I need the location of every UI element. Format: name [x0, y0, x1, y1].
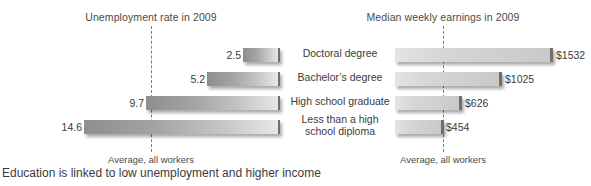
category-label: Less than a high school diploma [288, 114, 392, 137]
right-panel-title: Median weekly earnings in 2009 [366, 11, 519, 23]
earnings-value-label: $1025 [505, 73, 534, 85]
unemployment-bar [146, 96, 280, 110]
chart-figure: Unemployment rate in 2009 Median weekly … [0, 0, 591, 186]
category-label: Bachelor’s degree [288, 72, 392, 84]
unemployment-value-label: 5.2 [190, 73, 205, 85]
unemployment-bar [243, 48, 280, 62]
category-label: High school graduate [288, 96, 392, 108]
left-panel-title: Unemployment rate in 2009 [85, 11, 217, 23]
unemployment-value-label: 2.5 [226, 49, 241, 61]
chart-row: 5.2 Bachelor’s degree $1025 [0, 72, 591, 96]
right-average-caption: Average, all workers [400, 154, 486, 165]
left-average-caption: Average, all workers [108, 154, 194, 165]
earnings-value-label: $454 [446, 121, 469, 133]
figure-caption: Education is linked to low unemployment … [2, 166, 321, 180]
earnings-bar [395, 96, 462, 110]
unemployment-bar [207, 72, 280, 86]
earnings-value-label: $626 [465, 97, 488, 109]
unemployment-value-label: 9.7 [129, 97, 144, 109]
chart-row: 2.5 Doctoral degree $1532 [0, 48, 591, 72]
earnings-bar [395, 120, 444, 134]
category-label: Doctoral degree [288, 48, 392, 60]
chart-row: 14.6 Less than a high school diploma $45… [0, 120, 591, 144]
unemployment-value-label: 14.6 [62, 121, 82, 133]
earnings-value-label: $1532 [556, 49, 585, 61]
earnings-bar [395, 72, 502, 86]
unemployment-bar [84, 120, 280, 134]
earnings-bar [395, 48, 553, 62]
